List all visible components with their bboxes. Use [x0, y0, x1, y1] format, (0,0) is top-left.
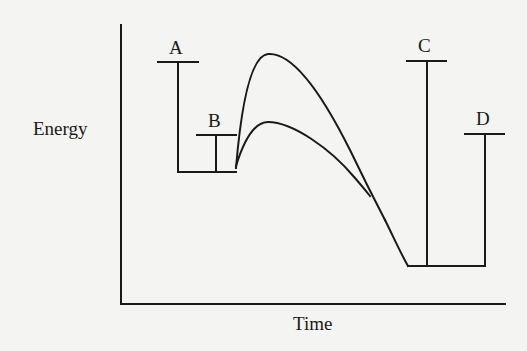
marker-a-label: A	[169, 38, 183, 57]
x-axis-label: Time	[293, 314, 332, 333]
marker-d-label: D	[476, 109, 490, 128]
y-axis-label: Energy	[33, 119, 88, 138]
uncatalyzed-curve	[236, 54, 385, 220]
marker-c-label: C	[418, 36, 431, 55]
catalyzed-curve	[236, 122, 370, 196]
marker-b-label: B	[208, 111, 221, 130]
product-descent-curve	[385, 220, 408, 266]
energy-diagram	[0, 0, 527, 351]
